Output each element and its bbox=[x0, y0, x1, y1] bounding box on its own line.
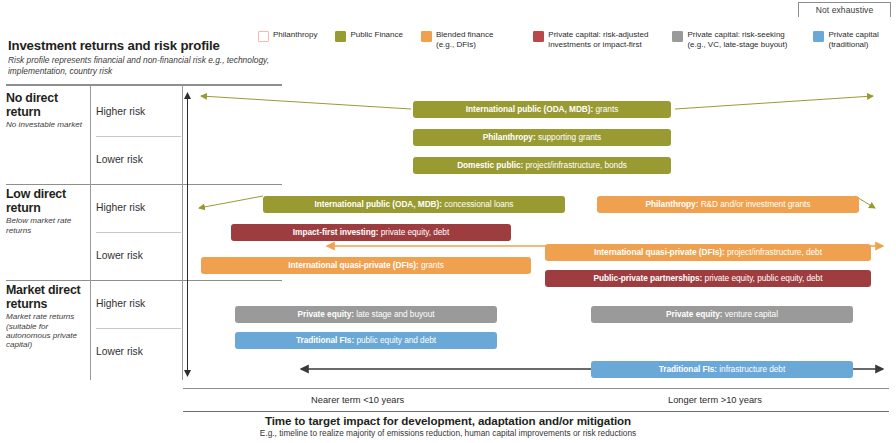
bar-label-bold: Impact-first investing: bbox=[293, 227, 379, 237]
row-note-text: No investable market bbox=[6, 120, 90, 129]
risk-label-higher-1: Higher risk bbox=[96, 106, 176, 117]
chart-bar[interactable]: Philanthropy: R&D and/or investment gran… bbox=[597, 196, 859, 213]
public-finance-spread-top-right bbox=[675, 96, 873, 109]
bar-label-sub: R&D and/or investment grants bbox=[698, 199, 810, 209]
chart-bar[interactable]: Traditional FIs: public equity and debt bbox=[235, 332, 497, 349]
bar-label-sub: infrastructure debt bbox=[717, 364, 785, 374]
legend-item-5: Private capital (traditional) bbox=[813, 30, 878, 50]
legend-swatch-icon bbox=[813, 31, 824, 42]
x-axis-band: Nearer term <10 years Longer term >10 ye… bbox=[183, 388, 889, 412]
legend-swatch-icon bbox=[421, 31, 432, 42]
risk-label-lower-2: Lower risk bbox=[96, 250, 176, 261]
x-axis-caption: Time to target impact for development, a… bbox=[0, 414, 896, 439]
chart-bar[interactable]: Traditional FIs: infrastructure debt bbox=[591, 361, 853, 378]
chart-bar[interactable]: Private equity: late stage and buyout bbox=[235, 306, 497, 323]
x-axis-caption-main: Time to target impact for development, a… bbox=[0, 414, 896, 428]
bar-label-sub: grants bbox=[593, 104, 618, 114]
column-divider bbox=[90, 86, 91, 380]
risk-label-higher-2: Higher risk bbox=[96, 202, 176, 213]
legend-item-1: Public Finance bbox=[335, 30, 402, 42]
page-subtitle: Risk profile represents financial and no… bbox=[8, 55, 276, 76]
row-title-low-direct-return: Low direct return Below market rate retu… bbox=[6, 188, 90, 235]
bar-label-sub: private equity, debt bbox=[378, 227, 449, 237]
bar-label-bold: International quasi-private (DFIs): bbox=[594, 247, 725, 257]
bar-label-sub: late stage and buyout bbox=[354, 309, 435, 319]
bar-label-bold: International quasi-private (DFIs): bbox=[288, 260, 419, 270]
chart-bar[interactable]: Private equity: venture capital bbox=[591, 306, 853, 323]
risk-split-3 bbox=[96, 328, 181, 329]
bar-label-bold: Domestic public: bbox=[457, 160, 523, 170]
x-axis-label-near: Nearer term <10 years bbox=[311, 395, 404, 405]
bar-label-bold: Private equity: bbox=[666, 309, 722, 319]
x-axis-caption-sub: E.g., timeline to realize majority of em… bbox=[0, 428, 896, 439]
risk-label-higher-3: Higher risk bbox=[96, 298, 176, 309]
risk-label-lower-1: Lower risk bbox=[96, 154, 176, 165]
bar-label-bold: Philanthropy: bbox=[646, 199, 699, 209]
legend-label: Public Finance bbox=[350, 30, 402, 40]
chart-bar[interactable]: Domestic public: project/infrastructure,… bbox=[413, 157, 671, 174]
bar-label-sub: project/infrastructure, bonds bbox=[523, 160, 627, 170]
legend: PhilanthropyPublic FinanceBlended financ… bbox=[258, 30, 896, 50]
bar-label-bold: International public (ODA, MDB): bbox=[466, 104, 593, 114]
chart-bar[interactable]: International quasi-private (DFIs): proj… bbox=[545, 244, 871, 261]
bar-label-bold: Traditional FIs: bbox=[659, 364, 717, 374]
title-block: Investment returns and risk profile Risk… bbox=[8, 38, 276, 76]
page-title: Investment returns and risk profile bbox=[8, 38, 276, 53]
chart-bar[interactable]: Impact-first investing: private equity, … bbox=[231, 224, 511, 241]
bar-label-bold: Public-private partnerships: bbox=[594, 273, 703, 283]
legend-label: Private capital: risk-seeking (e.g., VC,… bbox=[687, 30, 787, 50]
x-axis-label-long: Longer term >10 years bbox=[668, 395, 762, 405]
legend-label: Philanthropy bbox=[273, 30, 317, 40]
not-exhaustive-badge: Not exhaustive bbox=[798, 2, 891, 17]
bar-label-sub: project/infrastructure, debt bbox=[725, 247, 822, 257]
bar-label-bold: Private equity: bbox=[298, 309, 354, 319]
row-title-market-direct-returns: Market direct returns Market rate return… bbox=[6, 284, 90, 350]
legend-label: Blended finance (e.g., DFIs) bbox=[436, 30, 493, 50]
chart-bar[interactable]: Public-private partnerships: private equ… bbox=[545, 270, 871, 287]
bar-label-bold: Philanthropy: bbox=[483, 132, 536, 142]
public-finance-spread-top bbox=[201, 96, 411, 109]
row-title-text: Market direct returns bbox=[6, 283, 81, 311]
chart-area: No direct return No investable market Lo… bbox=[0, 84, 896, 384]
chart-bar[interactable]: International quasi-private (DFIs): gran… bbox=[201, 257, 531, 274]
plot-region: International public (ODA, MDB): grantsP… bbox=[183, 84, 889, 384]
legend-item-4: Private capital: risk-seeking (e.g., VC,… bbox=[672, 30, 787, 50]
legend-swatch-icon bbox=[533, 31, 544, 42]
risk-split-1 bbox=[96, 136, 181, 137]
row-title-text: No direct return bbox=[6, 91, 58, 119]
bar-label-sub: concessional loans bbox=[442, 199, 513, 209]
chart-bar[interactable]: International public (ODA, MDB): grants bbox=[413, 101, 671, 118]
legend-label: Private capital: risk-adjusted investmen… bbox=[548, 30, 648, 50]
chart-bar[interactable]: Philanthropy: supporting grants bbox=[413, 129, 671, 146]
legend-item-0: Philanthropy bbox=[258, 30, 317, 42]
bar-label-sub: public equity and debt bbox=[354, 335, 436, 345]
row-title-text: Low direct return bbox=[6, 187, 66, 215]
bar-label-sub: supporting grants bbox=[536, 132, 602, 142]
bar-label-bold: International public (ODA, MDB): bbox=[315, 199, 442, 209]
bar-label-sub: venture capital bbox=[722, 309, 777, 319]
bar-label-sub: private equity, public equity, debt bbox=[702, 273, 822, 283]
public-finance-spread-mid-left bbox=[199, 196, 263, 208]
bar-label-sub: grants bbox=[419, 260, 444, 270]
legend-label: Private capital (traditional) bbox=[828, 30, 878, 50]
legend-swatch-icon bbox=[672, 31, 683, 42]
legend-swatch-icon bbox=[258, 31, 269, 42]
bar-label-bold: Traditional FIs: bbox=[296, 335, 354, 345]
chart-bar[interactable]: International public (ODA, MDB): concess… bbox=[263, 196, 565, 213]
row-title-no-direct-return: No direct return No investable market bbox=[6, 92, 90, 130]
risk-label-lower-3: Lower risk bbox=[96, 346, 176, 357]
legend-item-3: Private capital: risk-adjusted investmen… bbox=[533, 30, 648, 50]
row-note-text: Market rate returns (suitable for autono… bbox=[6, 312, 90, 350]
row-note-text: Below market rate returns bbox=[6, 216, 90, 235]
risk-split-2 bbox=[96, 232, 181, 233]
legend-swatch-icon bbox=[335, 31, 346, 42]
legend-item-2: Blended finance (e.g., DFIs) bbox=[421, 30, 493, 50]
